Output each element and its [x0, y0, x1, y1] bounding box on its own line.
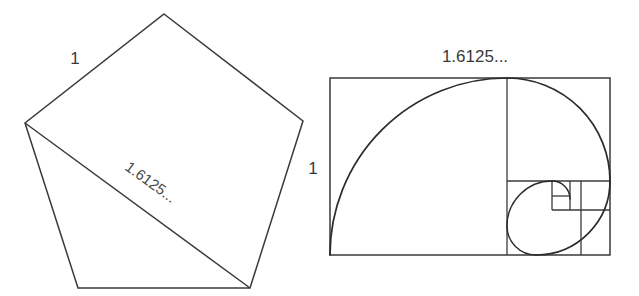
figure-background — [0, 0, 639, 296]
pentagon-edge-label: 1 — [70, 49, 79, 68]
geometry-figure: 1 1.6125... 1.6125... — [0, 0, 639, 296]
golden-rectangle-width-label: 1.6125... — [442, 47, 508, 66]
golden-rectangle-height-label: 1 — [308, 159, 317, 178]
